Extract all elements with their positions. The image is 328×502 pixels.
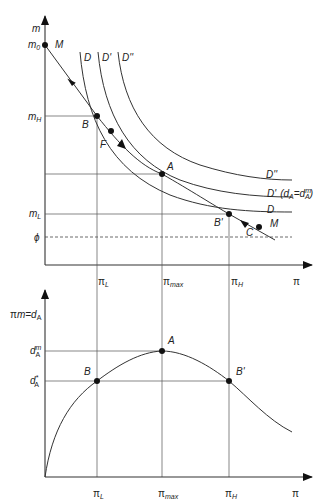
bottom-A-label: A <box>167 335 175 346</box>
dAm-label: dmA <box>30 344 42 358</box>
D-prime-curve <box>98 52 292 197</box>
bottom-pi-axis-label: π <box>292 488 299 499</box>
bottom-pi-max-label: πmax <box>158 488 179 500</box>
point-A <box>159 171 165 177</box>
A-label: A <box>166 161 174 172</box>
F-label: F <box>100 139 107 150</box>
bottom-y-axis-label: πm=dA <box>10 309 42 321</box>
money-demand-inflation-diagram: m m0 mH mL ϕ πL πmax πH π D D' D'' D'' D… <box>0 0 328 502</box>
M-top-label: M <box>55 39 64 50</box>
D-top-label: D <box>84 52 91 63</box>
bottom-point-B <box>94 378 100 384</box>
point-F <box>108 128 114 134</box>
C-label: C <box>246 227 254 238</box>
point-C <box>256 224 262 230</box>
B-label: B <box>82 119 89 130</box>
D-prime-top-label: D' <box>102 52 112 63</box>
mH-label: mH <box>28 111 42 123</box>
D-prime-right-label: D'(dA=dmA) <box>267 187 313 200</box>
D-double-prime-curve <box>118 52 292 180</box>
B-prime-label: B' <box>214 217 224 228</box>
mL-label: mL <box>29 208 41 220</box>
D-double-prime-top-label: D'' <box>122 52 134 63</box>
dAstar-label: d*A <box>30 374 39 388</box>
point-M0 <box>42 42 48 48</box>
top-y-axis-label: m <box>32 23 40 34</box>
m0-label: m0 <box>28 39 40 51</box>
bottom-B-prime-label: B' <box>236 366 246 377</box>
bottom-panel: πm=dA dmA d*A πL πmax πH π A B B' <box>10 290 312 500</box>
bottom-point-A <box>159 348 165 354</box>
phi-label: ϕ <box>34 232 40 243</box>
point-B <box>94 113 100 119</box>
bottom-pi-H-label: πH <box>225 488 238 500</box>
D-double-prime-right-label: D'' <box>266 169 278 180</box>
bottom-pi-L-label: πL <box>93 488 104 500</box>
bottom-B-label: B <box>84 366 91 377</box>
top-pi-axis-label: π <box>293 276 300 287</box>
dA-curve <box>45 351 292 477</box>
bottom-point-B-prime <box>226 378 232 384</box>
D-right-label: D <box>267 204 274 215</box>
top-pi-H-label: πH <box>231 276 244 288</box>
top-pi-L-label: πL <box>98 276 109 288</box>
top-pi-max-label: πmax <box>163 276 184 288</box>
point-B-prime <box>226 211 232 217</box>
M-bottom-label: M <box>270 218 279 229</box>
